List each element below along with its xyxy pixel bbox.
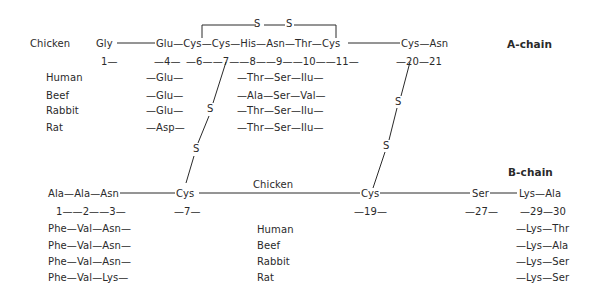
b-chain-residue-cys7: Cys <box>176 188 194 200</box>
a-variant-species-rat: Rat <box>46 122 63 134</box>
a-variant-rat-pos4: —Asp— <box>146 122 185 134</box>
a-chain-intrachain-s2: S <box>286 18 292 30</box>
b-variant-species-rabbit: Rabbit <box>257 256 290 268</box>
a-variant-beef-pos8-10: —Ala—Ser—Val— <box>237 90 326 102</box>
interchain-right-s1: S <box>395 96 401 108</box>
b-chain-residue-ser27: Ser <box>472 188 489 200</box>
b-variant-rat-pos1-3: Phe—Val—Lys— <box>48 272 128 284</box>
a-variant-beef-pos4: —Glu— <box>146 90 183 102</box>
b-variant-rat-pos29-30: —Lys—Ser <box>516 272 569 284</box>
a-variant-rabbit-pos8-10: —Thr—Ser—Ilu— <box>237 105 324 117</box>
a-chain-intrachain-bracket-right <box>294 25 336 38</box>
a-chain-intrachain-bracket <box>202 25 256 38</box>
b-chain-species-chicken: Chicken <box>253 179 293 191</box>
a-chain-pos-6-11: —6——7——8——9——10——11— <box>186 56 359 68</box>
a-chain-residue-gly1: Gly <box>96 38 113 50</box>
interchain-bridge-left-upper <box>213 62 226 103</box>
b-chain-pos-7: —7— <box>174 206 201 218</box>
a-variant-species-human: Human <box>46 72 83 84</box>
a-chain-species-chicken: Chicken <box>30 38 70 50</box>
b-variant-species-human: Human <box>257 224 294 236</box>
a-variant-human-pos8-10: —Thr—Ser—Ilu— <box>237 72 324 84</box>
a-chain-pos-1: 1— <box>101 56 118 68</box>
a-chain-residues-4-11: Glu—Cys—Cys—His—Asn—Thr—Cys <box>156 38 340 50</box>
b-chain-pos-29-30: —29—30 <box>520 206 566 218</box>
b-chain-residues-29-30: Lys—Ala <box>519 188 561 200</box>
a-variant-rat-pos8-10: —Thr—Ser—Ilu— <box>237 122 324 134</box>
b-variant-human-pos1-3: Phe—Val—Asn— <box>48 223 131 235</box>
b-chain-residues-1-3: Ala—Ala—Asn <box>48 188 119 200</box>
interchain-left-s1: S <box>207 103 213 115</box>
b-chain-pos-1-3: 1——2——3— <box>56 206 126 218</box>
b-variant-beef-pos1-3: Phe—Val—Asn— <box>48 240 131 252</box>
a-variant-species-rabbit: Rabbit <box>46 105 79 117</box>
b-variant-human-pos29-30: —Lys—Thr <box>516 223 569 235</box>
b-chain-pos-19: —19— <box>354 206 387 218</box>
interchain-right-s2: S <box>383 140 389 152</box>
b-variant-species-rat: Rat <box>257 272 274 284</box>
a-chain-residues-20-21: Cys—Asn <box>401 38 448 50</box>
a-chain-label: A-chain <box>507 38 552 50</box>
b-variant-species-beef: Beef <box>257 240 280 252</box>
b-variant-beef-pos29-30: —Lys—Ala <box>516 240 568 252</box>
interchain-left-s2: S <box>193 143 199 155</box>
b-variant-rabbit-pos29-30: —Lys—Ser <box>516 256 569 268</box>
b-chain-label: B-chain <box>508 166 553 178</box>
a-variant-human-pos4: —Glu— <box>146 72 183 84</box>
a-variant-rabbit-pos4: —Glu— <box>146 105 183 117</box>
b-chain-pos-27: —27— <box>465 206 498 218</box>
a-chain-pos-4: —4— <box>154 56 181 68</box>
a-chain-intrachain-s1: S <box>254 18 260 30</box>
a-variant-species-beef: Beef <box>46 90 69 102</box>
b-variant-rabbit-pos1-3: Phe—Val—Asn— <box>48 256 131 268</box>
a-chain-pos-20-21: —20—21 <box>396 56 442 68</box>
b-chain-residue-cys19: Cys <box>361 188 379 200</box>
